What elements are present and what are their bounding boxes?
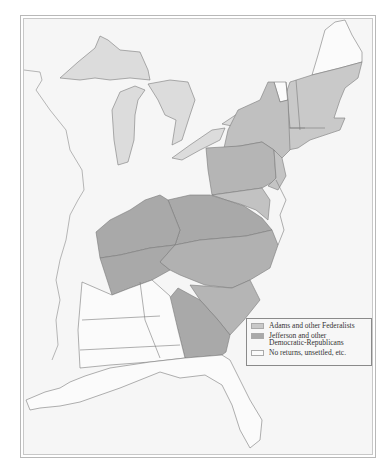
territory-mississippi-alabama (78, 280, 185, 368)
election-map (0, 0, 390, 471)
state-florida (26, 355, 262, 448)
legend-item-federalists: Adams and other Federalists (251, 322, 367, 330)
map-legend: Adams and other Federalists Jefferson an… (246, 318, 372, 366)
legend-item-democratic-republicans: Jefferson and other Democratic-Republica… (251, 332, 367, 347)
legend-item-no-returns: No returns, unsettled, etc. (251, 349, 367, 357)
federalist-swatch (251, 323, 264, 329)
lake-michigan (112, 86, 145, 165)
democratic-republican-swatch (251, 333, 264, 339)
lake-superior (60, 36, 150, 80)
state-new-england (280, 62, 362, 150)
state-pennsylvania (206, 142, 276, 195)
lake-huron (148, 80, 195, 145)
no-returns-swatch (251, 350, 264, 356)
